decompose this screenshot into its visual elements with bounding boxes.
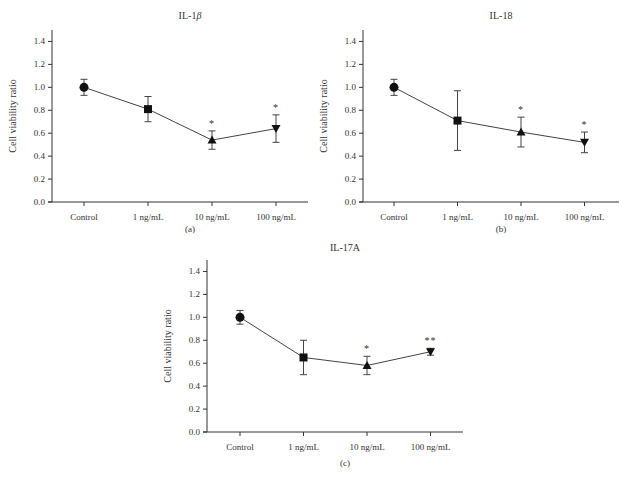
y-tick-label: 0.4 [345,151,357,161]
y-tick-label: 0.4 [189,381,201,391]
square-marker [300,353,308,361]
data-point [80,79,89,95]
y-tick-label: 1.0 [34,82,46,92]
x-tick-label: Control [70,212,98,222]
y-tick-label: 1.2 [34,59,45,69]
panel-label: (b) [496,224,507,234]
significance-mark: * [273,102,279,113]
y-tick-label: 0.8 [189,335,201,345]
circle-marker [236,313,245,322]
x-tick-label: 100 ng/mL [565,212,605,222]
data-line [240,317,431,365]
y-tick-label: 1.4 [189,266,201,276]
panel-label: (a) [185,224,195,234]
y-tick-label: 0.4 [34,151,46,161]
y-tick-label: 0.0 [34,197,46,207]
data-point [144,97,152,122]
y-axis-label: Cell viability ratio [7,79,18,152]
chart-title: IL-1β [179,10,202,21]
data-line [84,87,276,140]
y-axis-label: Cell viability ratio [162,309,173,382]
data-line [394,87,585,142]
significance-mark: ** [425,335,437,346]
data-point: * [272,102,281,143]
chart-panel-b: IL-180.00.20.40.60.81.01.21.4Cell viabil… [311,0,622,240]
x-tick-label: 100 ng/mL [256,212,296,222]
y-tick-label: 0.6 [189,358,201,368]
x-tick-label: Control [226,442,254,452]
square-marker [144,105,152,113]
significance-mark: * [582,119,588,130]
x-tick-label: 1 ng/mL [288,442,319,452]
y-tick-label: 1.4 [345,36,357,46]
data-point: * [517,104,526,147]
significance-mark: * [209,118,215,129]
chart-il17a: IL-17A0.00.20.40.60.81.01.21.4Cell viabi… [155,240,466,479]
y-tick-label: 0.2 [345,174,356,184]
significance-mark: * [518,104,524,115]
y-tick-label: 0.8 [34,105,46,115]
chart-il1b: IL-1β0.00.20.40.60.81.01.21.4Cell viabil… [0,0,311,240]
data-point: * [363,343,372,374]
y-tick-label: 0.6 [34,128,46,138]
y-tick-label: 0.6 [345,128,357,138]
x-tick-label: 1 ng/mL [133,212,164,222]
data-point [390,79,399,95]
x-tick-label: 10 ng/mL [194,212,229,222]
data-point [236,310,245,324]
significance-mark: * [364,343,370,354]
y-tick-label: 0.2 [34,174,45,184]
y-tick-label: 1.4 [34,36,46,46]
y-tick-label: 1.2 [189,289,200,299]
panel-label: (c) [340,458,350,468]
y-tick-label: 0.0 [189,427,201,437]
data-point: * [208,118,217,149]
y-tick-label: 0.8 [345,105,357,115]
x-tick-label: Control [380,212,408,222]
data-point: * [580,119,589,153]
chart-il18: IL-180.00.20.40.60.81.01.21.4Cell viabil… [311,0,622,240]
y-tick-label: 1.0 [345,82,357,92]
data-point [300,340,308,374]
circle-marker [80,83,89,92]
chart-title: IL-18 [490,10,513,21]
y-axis-label: Cell viability ratio [318,79,329,152]
x-tick-label: 100 ng/mL [411,442,451,452]
x-tick-label: 10 ng/mL [503,212,538,222]
chart-panel-c: IL-17A0.00.20.40.60.81.01.21.4Cell viabi… [155,240,466,479]
y-tick-label: 0.2 [189,404,200,414]
triangle-down-marker [580,139,589,147]
x-tick-label: 10 ng/mL [349,442,384,452]
square-marker [454,117,462,125]
circle-marker [390,83,399,92]
chart-title: IL-17A [330,242,361,253]
y-tick-label: 1.2 [345,59,356,69]
y-tick-label: 1.0 [189,312,201,322]
chart-panel-a: IL-1β0.00.20.40.60.81.01.21.4Cell viabil… [0,0,311,240]
x-tick-label: 1 ng/mL [442,212,473,222]
data-point [454,91,462,151]
y-tick-label: 0.0 [345,197,357,207]
